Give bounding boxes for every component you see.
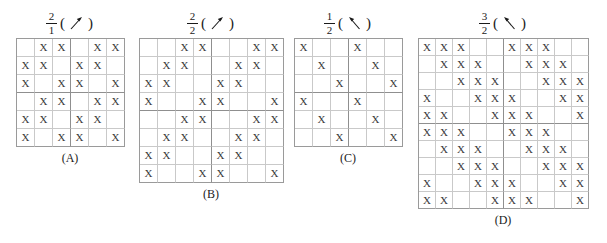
ratio-numerator: 2 — [47, 11, 57, 22]
grid-cell-empty — [453, 192, 470, 209]
grid-cell-marked: X — [572, 107, 589, 124]
panel-caption-b: (B) — [139, 187, 283, 202]
grid-cell-marked: X — [419, 39, 436, 56]
grid-cell-marked: X — [572, 192, 589, 209]
grid-cell-marked: X — [140, 165, 158, 183]
grid-cell-marked: X — [89, 111, 107, 129]
grid-cell-empty — [419, 73, 436, 90]
grid-cell-empty — [572, 124, 589, 141]
grid-cell-marked: X — [436, 124, 453, 141]
grid-cell-marked: X — [487, 90, 504, 107]
grid-cell-marked: X — [71, 57, 89, 75]
grid-cell-marked: X — [212, 147, 230, 165]
grid-cell-empty — [295, 57, 313, 75]
grid-cell-empty — [158, 165, 176, 183]
grid-cell-empty — [453, 175, 470, 192]
grid-cell-marked: X — [212, 165, 230, 183]
grid-cell-marked: X — [487, 175, 504, 192]
grid-cell-empty — [212, 129, 230, 147]
right-paren: ) — [228, 15, 235, 32]
grid-cell-empty — [89, 129, 107, 147]
grid-cell-marked: X — [140, 75, 158, 93]
grid-cell-empty — [266, 57, 284, 75]
grid-cell-marked: X — [419, 124, 436, 141]
grid-cell-empty — [555, 124, 572, 141]
grid-cell-marked: X — [521, 107, 538, 124]
grid-cell-marked: X — [436, 39, 453, 56]
right-paren: ) — [520, 15, 527, 32]
grid-cell-marked: X — [53, 129, 71, 147]
grid-cell-marked: X — [266, 93, 284, 111]
grid-cell-marked: X — [521, 39, 538, 56]
grid-cell-empty — [419, 158, 436, 175]
grid-cell-empty — [313, 75, 331, 93]
grid-cell-marked: X — [349, 39, 367, 57]
grid-cell-marked: X — [107, 93, 125, 111]
ratio-numerator: 3 — [480, 11, 490, 22]
grid-cell-marked: X — [419, 175, 436, 192]
grid-cell-marked: X — [194, 93, 212, 111]
grid-cell-marked: X — [53, 93, 71, 111]
grid-cell-marked: X — [158, 147, 176, 165]
pattern-grid-b: XXXXXXXXXXXXXXXXXXXXXXXXXXXXXXXX — [139, 38, 284, 183]
ratio-fraction: 21 — [46, 11, 57, 36]
grid-cell-empty — [176, 75, 194, 93]
grid-cell-marked: X — [71, 111, 89, 129]
grid-cell-marked: X — [572, 175, 589, 192]
panel-header-c: 12() — [294, 8, 402, 38]
grid-cell-empty — [140, 129, 158, 147]
grid-cell-marked: X — [212, 75, 230, 93]
ratio-denominator: 2 — [480, 25, 490, 36]
grid-cell-empty — [331, 111, 349, 129]
grid-cell-empty — [295, 129, 313, 147]
grid-cell-empty — [385, 39, 403, 57]
grid-cell-empty — [538, 90, 555, 107]
grid-cell-empty — [230, 111, 248, 129]
grid-cell-empty — [140, 39, 158, 57]
grid-cell-marked: X — [331, 129, 349, 147]
grid-cell-empty — [230, 93, 248, 111]
grid-cell-marked: X — [572, 90, 589, 107]
grid-cell-marked: X — [194, 165, 212, 183]
grid-cell-marked: X — [107, 39, 125, 57]
grid-cell-empty — [470, 192, 487, 209]
grid-cell-empty — [436, 90, 453, 107]
grid-cell-empty — [538, 192, 555, 209]
grid-cell-empty — [436, 175, 453, 192]
grid-cell-marked: X — [487, 73, 504, 90]
grid-cell-empty — [349, 111, 367, 129]
grid-cell-empty — [176, 165, 194, 183]
grid-cell-empty — [248, 93, 266, 111]
grid-cell-marked: X — [521, 192, 538, 209]
grid-cell-marked: X — [35, 111, 53, 129]
grid-cell-marked: X — [230, 129, 248, 147]
grid-cell-marked: X — [453, 124, 470, 141]
grid-cell-marked: X — [504, 175, 521, 192]
grid-cell-marked: X — [313, 111, 331, 129]
grid-cell-marked: X — [53, 39, 71, 57]
grid-cell-marked: X — [521, 141, 538, 158]
grid-cell-marked: X — [140, 93, 158, 111]
ratio-denominator: 2 — [188, 25, 198, 36]
grid-cell-marked: X — [89, 39, 107, 57]
grid-cell-marked: X — [504, 107, 521, 124]
ratio-denominator: 2 — [325, 25, 335, 36]
grid-cell-empty — [331, 39, 349, 57]
grid-cell-empty — [572, 141, 589, 158]
ratio-numerator: 1 — [325, 11, 335, 22]
grid-cell-marked: X — [538, 141, 555, 158]
grid-cell-empty — [572, 39, 589, 56]
grid-cell-empty — [313, 129, 331, 147]
panel-header-a: 21() — [16, 8, 124, 38]
grid-cell-empty — [35, 75, 53, 93]
grid-cell-marked: X — [71, 129, 89, 147]
grid-cell-empty — [230, 39, 248, 57]
grid-cell-empty — [212, 57, 230, 75]
grid-cell-marked: X — [487, 192, 504, 209]
grid-cell-marked: X — [194, 111, 212, 129]
grid-cell-empty — [140, 111, 158, 129]
grid-cell-empty — [295, 75, 313, 93]
grid-cell-empty — [248, 147, 266, 165]
grid-cell-empty — [521, 158, 538, 175]
grid-cell-empty — [367, 93, 385, 111]
